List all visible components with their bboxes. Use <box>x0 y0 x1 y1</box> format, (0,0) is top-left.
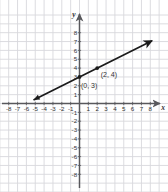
x-tick-label: 7 <box>140 105 144 112</box>
grid-layer <box>0 0 168 192</box>
x-tick-label: 2 <box>95 105 99 112</box>
y-tick-label: -4 <box>72 135 78 142</box>
plotted-line <box>33 41 152 100</box>
y-tick-label: -7 <box>72 162 78 169</box>
point-label-0-3: (0, 3) <box>81 82 97 90</box>
x-tick-label: -2 <box>59 105 65 112</box>
y-tick-label: -1 <box>72 109 78 116</box>
y-tick-label: 8 <box>74 29 78 36</box>
x-tick-label: 3 <box>104 105 108 112</box>
y-tick-label: 5 <box>74 55 78 62</box>
x-tick-label: 8 <box>149 105 153 112</box>
y-tick-label: -5 <box>72 144 78 151</box>
y-tick-label: 7 <box>74 38 78 45</box>
y-tick-label: -6 <box>72 153 78 160</box>
data-point-marker <box>78 75 82 79</box>
coordinate-plane-graph: -8-7-6-5-4-3-2-11234567887654321-1-2-3-4… <box>0 0 168 192</box>
y-tick-label: -2 <box>72 117 78 124</box>
x-tick-label: 5 <box>122 105 126 112</box>
x-tick-label: 1 <box>87 105 91 112</box>
y-tick-label: 1 <box>74 91 78 98</box>
y-tick-label: -3 <box>72 126 78 133</box>
x-tick-label: -8 <box>6 105 12 112</box>
graph-canvas: -8-7-6-5-4-3-2-11234567887654321-1-2-3-4… <box>0 0 168 192</box>
y-tick-label: 4 <box>74 64 78 71</box>
x-tick-label: -5 <box>32 105 38 112</box>
axis-labels-layer: yx <box>71 10 165 112</box>
y-tick-label: 6 <box>74 47 78 54</box>
x-tick-label: 4 <box>113 105 117 112</box>
x-axis-label: x <box>160 103 165 112</box>
x-tick-label: -6 <box>24 105 30 112</box>
axes-layer <box>2 14 160 188</box>
data-point-marker <box>95 66 99 70</box>
x-tick-label: -3 <box>50 105 56 112</box>
x-tick-label: 6 <box>131 105 135 112</box>
y-axis-label: y <box>71 10 76 19</box>
y-tick-label: -8 <box>72 171 78 178</box>
x-tick-label: -7 <box>15 105 21 112</box>
x-tick-label: -4 <box>41 105 47 112</box>
point-label-2-4: (2, 4) <box>101 71 117 79</box>
y-tick-label: 2 <box>74 82 78 89</box>
plotted-line-layer <box>33 41 152 100</box>
